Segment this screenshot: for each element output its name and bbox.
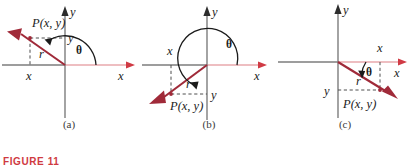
panel-caption-a: (a) (0, 118, 138, 130)
label-leg-y: y (66, 31, 74, 45)
point-marker-P (28, 36, 32, 40)
figure-label: FIGURE 11 (3, 156, 60, 168)
label-leg-y: y (322, 84, 330, 98)
label-radius-r: r (39, 47, 44, 61)
diagram-panel-a: P(x, y) y x r θ x y (0, 0, 138, 124)
label-angle-theta: θ (366, 66, 372, 78)
terminal-ray-arrowhead-icon (382, 86, 398, 100)
label-point-P: P(x, y) (169, 99, 203, 113)
panel-a-canvas: P(x, y) y x r θ x y (0, 0, 138, 124)
panel-c-canvas: x y r P(x, y) θ x y (276, 0, 413, 124)
panel-caption-c: (c) (276, 118, 413, 130)
label-radius-r: r (186, 77, 191, 91)
label-angle-theta: θ (76, 44, 82, 56)
angle-arc-arrowhead-icon (190, 82, 199, 90)
figure-container: P(x, y) y x r θ x y (0, 0, 413, 168)
label-axis-x: x (253, 69, 260, 83)
x-axis-arrowhead-icon (398, 58, 407, 65)
label-axis-y: y (68, 5, 76, 19)
label-angle-theta: θ (226, 38, 232, 50)
label-leg-x: x (376, 41, 383, 55)
label-leg-x: x (166, 44, 173, 58)
label-axis-x: x (117, 69, 124, 83)
label-axis-y: y (210, 5, 218, 19)
terminal-ray-arrowhead-icon (149, 91, 166, 105)
label-leg-x: x (25, 69, 32, 83)
panel-b-canvas: x y r P(x, y) θ x y (140, 0, 278, 124)
y-axis-arrowhead-icon (334, 4, 341, 14)
y-axis-arrowhead-icon (61, 6, 68, 16)
angle-arc-arrowhead-icon (45, 38, 53, 46)
label-axis-x: x (393, 66, 400, 80)
label-leg-y: y (209, 88, 217, 102)
point-marker-P (378, 88, 382, 92)
x-axis-arrowhead-icon (126, 61, 135, 68)
label-axis-y: y (341, 3, 349, 17)
diagram-panel-b: x y r P(x, y) θ x y (140, 0, 278, 124)
label-point-P: P(x, y) (342, 97, 376, 111)
x-axis-arrowhead-icon (258, 61, 267, 68)
point-marker-P (169, 92, 173, 96)
diagram-panel-c: x y r P(x, y) θ x y (276, 0, 413, 124)
panel-caption-b: (b) (140, 118, 278, 130)
terminal-ray-arrowhead-icon (7, 28, 22, 40)
label-radius-r: r (356, 74, 361, 88)
y-axis-arrowhead-icon (203, 6, 210, 16)
label-point-P: P(x, y) (31, 16, 65, 30)
